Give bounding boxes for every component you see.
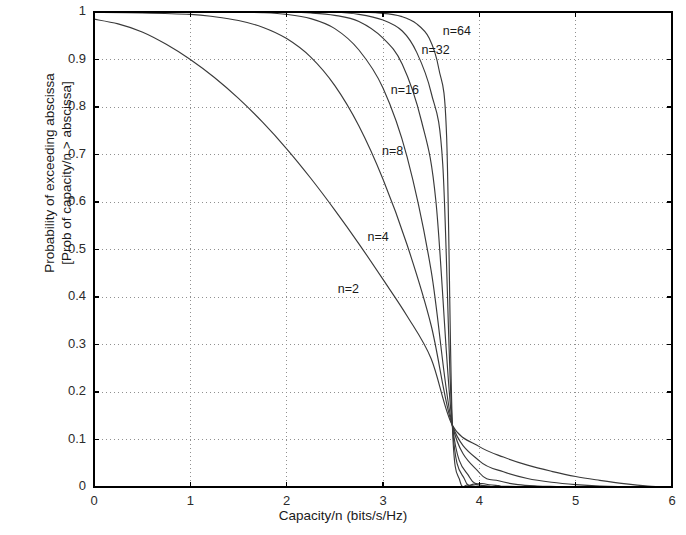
x-tick-label: 0 (74, 493, 114, 508)
y-tick-label: 0.2 (32, 383, 86, 398)
x-tick-label: 2 (267, 493, 307, 508)
y-axis-title: Probability of exceeding abscissa [Prob … (41, 13, 85, 333)
x-tick-label: 1 (170, 493, 210, 508)
y-tick-label: 0.3 (32, 336, 86, 351)
y-axis-title-line-1: Probability of exceeding abscissa (41, 13, 58, 333)
grid-lines (94, 12, 672, 487)
y-tick-label: 0 (32, 478, 86, 493)
x-tick-label: 4 (459, 493, 499, 508)
curve-label-n-32: n=32 (422, 43, 450, 57)
x-tick-label: 6 (652, 493, 686, 508)
curve-label-n-16: n=16 (391, 83, 419, 97)
curve-label-n-2: n=2 (338, 282, 359, 296)
curve-label-n-64: n=64 (443, 24, 471, 38)
curve-label-n-8: n=8 (382, 144, 403, 158)
curve-label-n-4: n=4 (368, 230, 389, 244)
figure-canvas: 00.10.20.30.40.50.60.70.80.91 0123456 n=… (0, 0, 686, 535)
y-axis-title-line-2: [Prob of capacity/n > abscissa] (58, 13, 75, 333)
x-tick-label: 3 (363, 493, 403, 508)
y-tick-label: 0.1 (32, 431, 86, 446)
x-tick-label: 5 (556, 493, 596, 508)
chart-plot-area (0, 0, 686, 535)
x-axis-title: Capacity/n (bits/s/Hz) (0, 508, 686, 523)
